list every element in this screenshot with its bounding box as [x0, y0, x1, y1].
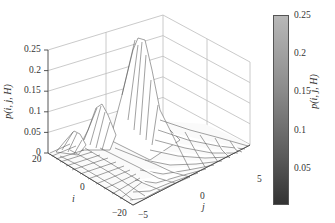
z-tick-0.05: 0.05 [24, 128, 41, 138]
colorbar-tick-0.25: 0.25 [294, 11, 311, 21]
i-axis-label: i [72, 193, 75, 204]
i-tick-20: 20 [32, 155, 42, 165]
surface-mesh [48, 38, 250, 205]
z-tick-0.15: 0.15 [24, 86, 41, 96]
colorbar-label: p(i, j, H) [308, 74, 319, 108]
z-tick-0.2: 0.2 [29, 66, 41, 76]
z-tick-0.1: 0.1 [29, 107, 41, 117]
i-tick-neg20: −20 [112, 209, 127, 219]
j-tick-neg5: −5 [138, 211, 148, 221]
i-tick-0: 0 [80, 183, 85, 193]
z-axis-label: p(i, j, H) [2, 84, 13, 118]
colorbar-tick-0.2: 0.2 [294, 49, 306, 59]
z-tick-0.25: 0.25 [24, 45, 41, 55]
colorbar [273, 15, 289, 205]
colorbar-tick-0.05: 0.05 [294, 164, 311, 174]
j-tick-5: 5 [257, 175, 262, 185]
colorbar-tick-0.1: 0.1 [294, 126, 306, 136]
j-axis-label: j [202, 201, 205, 212]
